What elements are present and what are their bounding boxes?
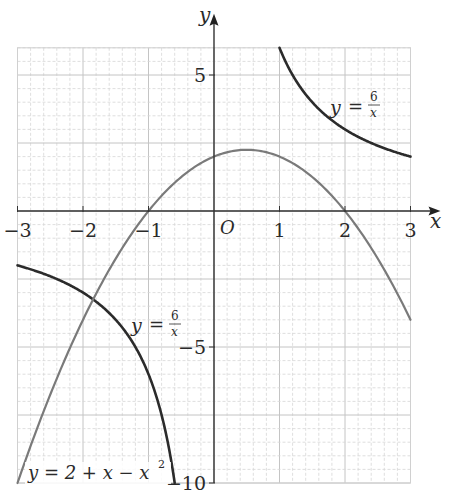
- x-tick-label: 2: [339, 219, 351, 241]
- x-tick-label: 3: [404, 219, 416, 241]
- y-tick-label: −10: [166, 472, 206, 494]
- x-tick-label: 1: [273, 219, 285, 241]
- svg-text:y: y: [329, 96, 341, 118]
- svg-text:x: x: [370, 106, 377, 120]
- x-tick-label: −1: [134, 219, 162, 241]
- origin-label: O: [220, 217, 235, 238]
- graph: −3−2−11235−5−10 y x O y = 6 x y = 6 x y …: [0, 0, 453, 502]
- svg-text:=: =: [149, 314, 164, 335]
- x-tick-label: −3: [3, 219, 31, 241]
- x-tick-label: −2: [69, 219, 97, 241]
- label-hyperbola-lower: y = 6 x: [130, 309, 181, 339]
- svg-text:=: =: [348, 96, 363, 117]
- svg-text:x: x: [171, 325, 178, 339]
- axes: [18, 14, 441, 483]
- svg-text:2: 2: [158, 458, 165, 471]
- y-tick-label: −5: [178, 336, 206, 358]
- y-tick-label: 5: [194, 64, 206, 86]
- x-axis-label: x: [430, 209, 441, 233]
- svg-text:y = 2 + x − x: y = 2 + x − x: [27, 462, 150, 483]
- svg-text:y: y: [130, 314, 142, 336]
- label-hyperbola-upper: y = 6 x: [329, 90, 380, 120]
- svg-text:6: 6: [370, 90, 378, 104]
- label-parabola: y = 2 + x − x 2: [25, 458, 171, 484]
- svg-text:6: 6: [171, 309, 179, 323]
- y-axis-label: y: [198, 3, 211, 27]
